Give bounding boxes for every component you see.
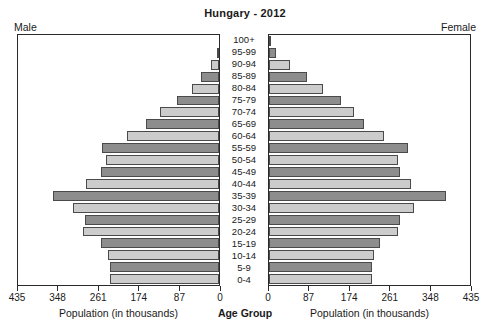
bar-male-15-19 [101,238,219,248]
bar-row [269,59,470,71]
tick-female-261 [389,286,390,291]
bar-male-30-34 [73,203,219,213]
bar-row [18,59,219,71]
bar-row [269,154,470,166]
age-group-label: 65-69 [220,118,268,130]
bar-row [269,261,470,273]
bar-female-100plus [269,36,271,46]
tick-female-87 [308,286,309,291]
age-group-label: 60-64 [220,130,268,142]
tick-label-female-0: 0 [265,292,271,304]
bar-row [18,47,219,59]
age-group-label: 70-74 [220,106,268,118]
bar-row [269,71,470,83]
bar-row [18,237,219,249]
bar-male-60-64 [127,131,219,141]
tick-label-male-0: 0 [217,292,223,304]
bar-row [18,166,219,178]
bar-row [269,95,470,107]
tick-female-174 [349,286,350,291]
bar-female-40-44 [269,179,411,189]
bar-female-50-54 [269,155,398,165]
bar-row [269,178,470,190]
bar-female-25-29 [269,215,400,225]
tick-female-435 [471,286,472,291]
age-group-label: 35-39 [220,190,268,202]
page-title: Hungary - 2012 [0,7,490,20]
bar-male-20-24 [83,227,219,237]
tick-label-male-174: 174 [130,292,147,304]
age-group-label: 25-29 [220,214,268,226]
tick-label-female-435: 435 [463,292,480,304]
female-x-tick-labels: 087174261348435 [268,292,471,305]
bar-female-0-4 [269,274,372,284]
tick-label-male-87: 87 [174,292,185,304]
bar-row [269,237,470,249]
bar-row [18,95,219,107]
bar-female-35-39 [269,191,446,201]
bar-row [269,142,470,154]
tick-label-male-261: 261 [90,292,107,304]
age-group-label: 5-9 [220,262,268,274]
bar-female-65-69 [269,119,364,129]
bar-row [269,226,470,238]
bar-row [269,35,470,47]
male-bar-rows [18,35,219,285]
age-group-label: 0-4 [220,274,268,286]
tick-label-male-435: 435 [9,292,26,304]
bar-row [18,273,219,285]
age-group-label: 90-94 [220,58,268,70]
tick-male-87 [179,286,180,291]
tick-label-male-348: 348 [49,292,66,304]
bar-row [269,118,470,130]
bar-male-80-84 [192,84,219,94]
bar-row [269,190,470,202]
tick-male-0 [220,286,221,291]
bar-male-70-74 [160,107,219,117]
bar-male-5-9 [110,262,219,272]
bar-row [269,83,470,95]
tick-label-female-261: 261 [381,292,398,304]
bar-female-5-9 [269,262,372,272]
bar-row [18,154,219,166]
age-group-label: 45-49 [220,166,268,178]
male-axis-caption: Population (in thousands) [17,307,220,320]
bar-row [18,202,219,214]
bar-row [18,83,219,95]
bar-male-85-89 [201,72,219,82]
bar-female-30-34 [269,203,414,213]
bar-row [18,35,219,47]
bar-female-20-24 [269,227,398,237]
age-group-label: 50-54 [220,154,268,166]
bar-male-35-39 [53,191,219,201]
age-group-label: 85-89 [220,70,268,82]
bar-row [18,249,219,261]
bar-row [18,178,219,190]
bar-row [18,261,219,273]
female-bar-rows [269,35,470,285]
bar-male-25-29 [85,215,219,225]
male-x-tick-labels: 435348261174870 [17,292,220,305]
tick-label-female-348: 348 [422,292,439,304]
age-group-label: 75-79 [220,94,268,106]
female-axis-caption: Population (in thousands) [268,307,471,320]
age-group-label: 55-59 [220,142,268,154]
bar-male-45-49 [101,167,219,177]
bar-male-55-59 [102,143,219,153]
tick-male-261 [98,286,99,291]
bar-male-65-69 [146,119,219,129]
bar-row [18,118,219,130]
age-group-label: 40-44 [220,178,268,190]
tick-label-female-87: 87 [303,292,314,304]
age-group-label: 10-14 [220,250,268,262]
age-group-axis: 100+95-9990-9485-8980-8475-7970-7465-696… [220,34,268,286]
age-group-label: 95-99 [220,46,268,58]
bar-female-80-84 [269,84,323,94]
bar-female-75-79 [269,96,341,106]
bar-female-45-49 [269,167,400,177]
bar-row [18,214,219,226]
male-side-label: Male [14,21,37,33]
population-pyramid-chart: Hungary - 2012 Male Female 100+95-9990-9… [0,0,490,327]
bar-male-90-94 [211,60,219,70]
bar-female-60-64 [269,131,384,141]
